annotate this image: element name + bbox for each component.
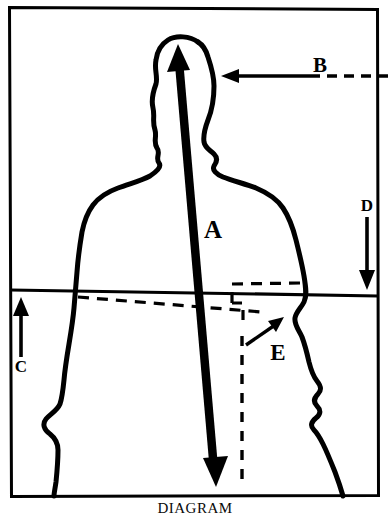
label-c: C (15, 357, 27, 376)
diagram-canvas: A B C D E (0, 0, 390, 516)
label-a: A (204, 216, 222, 243)
label-d: D (361, 196, 373, 215)
label-e: E (270, 340, 285, 365)
figure-root: A B C D E DIAGRAM (0, 0, 390, 516)
label-b: B (313, 53, 327, 77)
figure-caption: DIAGRAM (0, 500, 390, 516)
